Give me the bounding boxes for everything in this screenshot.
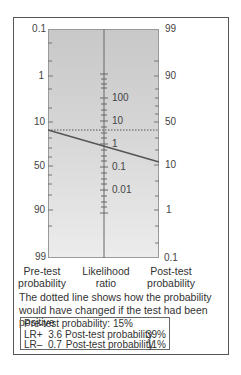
lr-axis-caption: Likelihood ratio	[78, 265, 134, 289]
caption-line: probability	[14, 277, 70, 289]
pretest-row: Pre-test probability: 15%	[24, 319, 166, 330]
mid-tick-label: 1	[112, 139, 118, 149]
mid-tick-label: 100	[112, 93, 129, 103]
right-tick-label: 90	[165, 71, 176, 81]
caption-line: Pre-test	[14, 265, 70, 277]
caption-line: Post-test	[143, 265, 199, 277]
right-tick-label: 99	[165, 24, 176, 34]
right-tick-label: 50	[165, 117, 176, 127]
caption-line: ratio	[78, 277, 134, 289]
mid-tick-label: 10	[112, 116, 123, 126]
left-tick-label: 99	[16, 252, 46, 262]
left-tick-label: 10	[15, 117, 45, 127]
lr-value: LR– 0.7	[24, 340, 66, 351]
left-tick-label: 50	[15, 161, 45, 171]
left-tick-label: 0.1	[16, 24, 46, 34]
posttest-axis-caption: Post-test probability	[143, 265, 199, 289]
pretest-axis-caption: Pre-test probability	[14, 265, 70, 289]
posttest-label: Post-test probability	[66, 340, 144, 351]
caption-line: Likelihood	[78, 265, 134, 277]
lr-negative-row: LR– 0.7 Post-test probability 11%	[24, 340, 166, 351]
mid-tick-label: 0.1	[112, 162, 126, 172]
posttest-value: 11%	[147, 340, 166, 351]
right-tick-label: 1	[166, 205, 172, 215]
left-tick-label: 1	[14, 71, 44, 81]
pretest-text: Pre-test probability: 15%	[24, 319, 133, 330]
mid-tick-label: 0.01	[112, 185, 131, 195]
right-tick-label: 0.1	[164, 253, 178, 263]
summary-box: Pre-test probability: 15% LR+ 3.6 Post-t…	[20, 317, 170, 350]
caption-line: probability	[143, 277, 199, 289]
right-tick-label: 10	[165, 160, 176, 170]
left-tick-label: 90	[15, 205, 45, 215]
